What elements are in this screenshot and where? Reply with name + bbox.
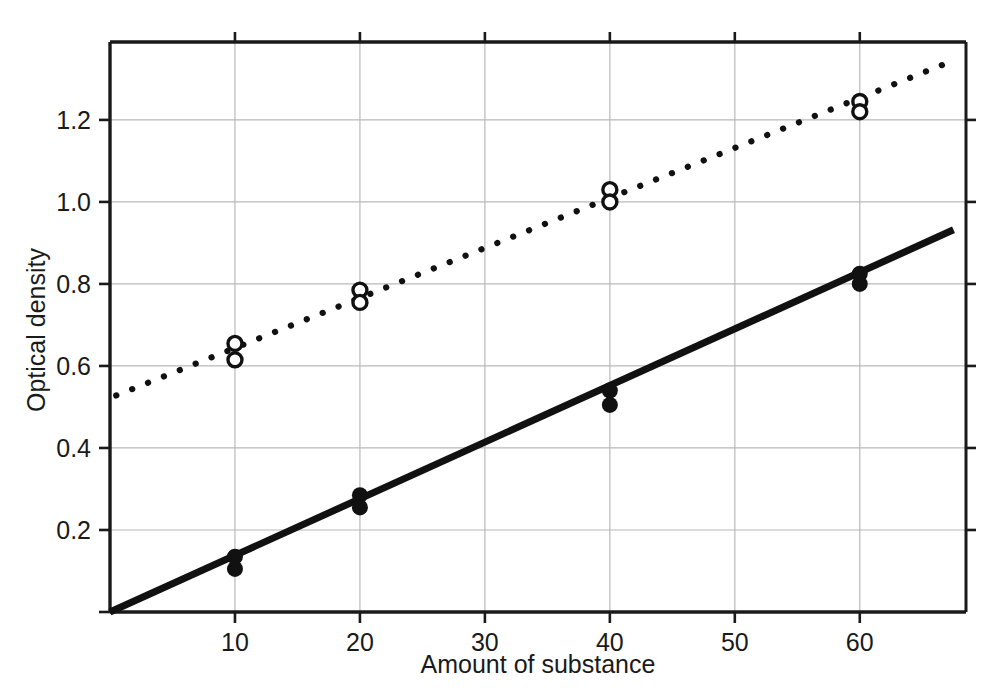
chart-container: 0.20.40.60.81.01.2 102030405060 Amount o… — [0, 0, 1000, 700]
y-axis-tick-labels: 0.20.40.60.81.01.2 — [56, 106, 91, 544]
data-point-open-circle — [228, 336, 242, 350]
x-tick-label: 10 — [221, 628, 249, 656]
data-point-open-circle — [353, 295, 367, 309]
data-point-open-circle — [853, 105, 867, 119]
data-point-filled-circle — [227, 561, 243, 577]
y-axis-title: Optical density — [22, 248, 50, 412]
data-point-filled-circle — [352, 499, 368, 515]
data-point-filled-circle — [602, 383, 618, 399]
y-tick-label: 1.2 — [56, 106, 91, 134]
y-tick-label: 0.4 — [56, 434, 91, 462]
gridlines-horizontal — [110, 120, 966, 530]
data-point-open-circle — [228, 353, 242, 367]
x-tick-label: 50 — [721, 628, 749, 656]
optical-density-scatter-plot: 0.20.40.60.81.01.2 102030405060 Amount o… — [0, 0, 1000, 700]
data-point-filled-circle — [852, 276, 868, 292]
gridlines-vertical — [235, 42, 860, 612]
data-point-filled-circle — [602, 397, 618, 413]
x-tick-label: 60 — [846, 628, 874, 656]
y-tick-label: 1.0 — [56, 188, 91, 216]
data-points-open — [228, 94, 867, 366]
y-tick-label: 0.8 — [56, 270, 91, 298]
data-point-open-circle — [603, 195, 617, 209]
y-tick-label: 0.2 — [56, 516, 91, 544]
x-tick-label: 20 — [346, 628, 374, 656]
y-tick-label: 0.6 — [56, 352, 91, 380]
x-axis-title: Amount of substance — [421, 650, 656, 678]
